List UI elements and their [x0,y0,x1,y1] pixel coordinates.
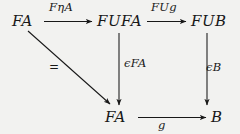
edge-label-g: g [158,120,166,132]
node-b: B [211,110,223,125]
edge-label-equals: = [49,61,59,73]
node-fa-bottom: FA [105,110,126,125]
commutative-diagram: FA FUFA FUB FA B FηA FUg ϵFA ϵB g = [0,0,240,134]
node-fa-top-left: FA [12,14,33,29]
edge-label-f-eta-a: FηA [49,2,73,14]
node-fub: FUB [191,14,227,29]
edge-label-epsilon-fa: ϵFA [124,58,147,70]
edge-label-epsilon-b: ϵB [206,62,222,74]
arrow-diagonal [28,31,110,104]
node-fufa: FUFA [97,14,142,29]
edge-label-fug: FUg [151,2,177,14]
